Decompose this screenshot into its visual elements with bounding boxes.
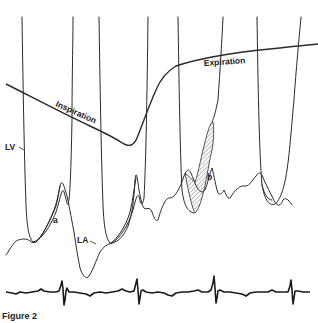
la-pressure-overlay [36,186,60,242]
figure-caption: Figure 2 [2,311,37,321]
la-label-leader [90,241,96,244]
shaded-area-b [185,122,214,213]
lv-label-leader [19,147,24,150]
a-wave-label: a [53,215,58,225]
la-label: LA [77,235,88,245]
lv-label: LV [5,142,16,152]
b-area-label: b [207,172,212,182]
expiration-label: Expiration [203,55,245,68]
ecg-trace [6,276,310,305]
respiration-trace [6,44,318,145]
